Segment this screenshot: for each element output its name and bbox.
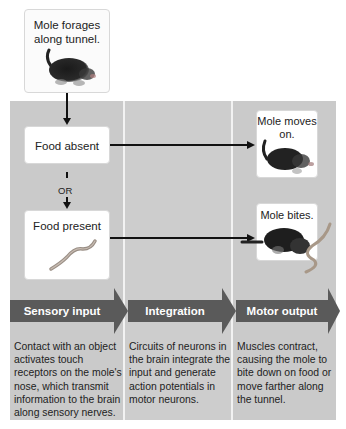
food-absent-box: Food absent xyxy=(24,126,110,164)
motor-output-label: Motor output xyxy=(236,300,328,322)
flow-arrow-line xyxy=(66,93,68,119)
food-present-box: Food present xyxy=(24,210,110,280)
present-to-bites-arrow-line xyxy=(110,237,248,239)
mole-forages-box: Mole forages along tunnel. xyxy=(24,9,110,93)
mole-moves-on-box: Mole moves on. xyxy=(256,110,318,178)
sensory-input-arrowhead xyxy=(114,288,128,334)
sensory-input-description: Contact with an object activates touch r… xyxy=(14,340,124,419)
absent-to-moves-arrow-head xyxy=(247,141,255,149)
integration-arrowhead xyxy=(222,288,236,334)
integration-label: Integration xyxy=(128,300,222,322)
flow-arrow-head xyxy=(63,118,71,125)
mole-icon xyxy=(43,48,99,88)
mole-biting-worm-icon xyxy=(240,220,336,276)
mole-icon xyxy=(259,137,317,177)
or-label: OR xyxy=(58,185,72,196)
absent-to-moves-arrow-line xyxy=(110,144,248,146)
motor-output-description: Muscles contract, causing the mole to bi… xyxy=(237,340,337,406)
mole-forages-label: Mole forages along tunnel. xyxy=(25,10,109,46)
sensory-input-label: Sensory input xyxy=(10,300,114,322)
or-arrow-head xyxy=(63,202,71,209)
food-absent-label: Food absent xyxy=(25,127,109,153)
food-present-label: Food present xyxy=(25,211,109,233)
worm-icon xyxy=(47,237,99,273)
integration-description: Circuits of neurons in the brain integra… xyxy=(129,340,231,406)
column-divider xyxy=(231,101,233,420)
motor-output-arrowhead xyxy=(328,288,340,334)
or-arrow-line-top xyxy=(66,172,68,178)
